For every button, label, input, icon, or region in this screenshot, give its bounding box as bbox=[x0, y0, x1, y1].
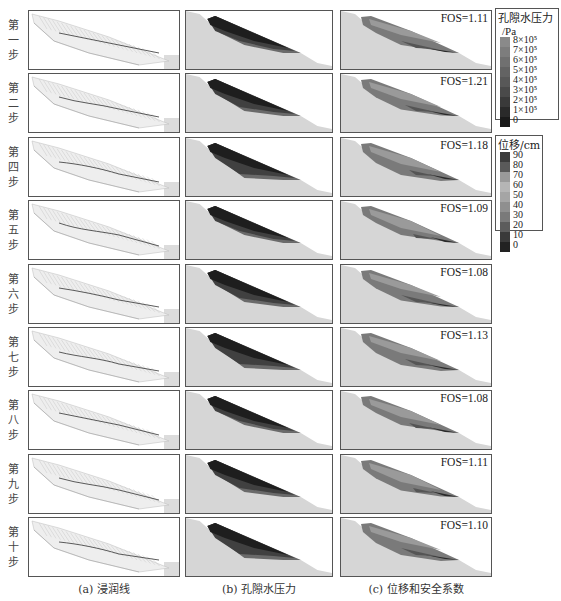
legend-swatch bbox=[500, 242, 510, 252]
seepage-line-panel bbox=[28, 73, 180, 133]
legend-swatch bbox=[500, 97, 510, 107]
row-label-step: 第一步 bbox=[4, 18, 22, 63]
pore-pressure-panel bbox=[185, 10, 333, 70]
pore-pressure-panel bbox=[185, 137, 333, 197]
legend-tick: 0 bbox=[513, 115, 537, 125]
row-label-step: 第六步 bbox=[4, 272, 22, 317]
legend-swatch bbox=[500, 182, 510, 192]
fos-value: FOS=1.18 bbox=[440, 139, 488, 151]
caption-a-seepage-line: (a) 浸润线 bbox=[28, 580, 180, 596]
pore-pressure-panel bbox=[185, 200, 333, 260]
legend-swatch bbox=[500, 77, 510, 87]
fos-value: FOS=1.13 bbox=[440, 329, 488, 341]
fos-value: FOS=1.09 bbox=[440, 202, 488, 214]
pore-pressure-panel bbox=[185, 73, 333, 133]
pore-pressure-panel bbox=[185, 517, 333, 577]
fos-value: FOS=1.10 bbox=[440, 519, 488, 531]
legend-swatch bbox=[500, 37, 510, 47]
pore-pressure-panel bbox=[185, 454, 333, 514]
seepage-line-panel bbox=[28, 327, 180, 387]
legend-swatch bbox=[500, 117, 510, 127]
legend-swatch bbox=[500, 192, 510, 202]
legend-swatch bbox=[500, 87, 510, 97]
row-label-step: 第二步 bbox=[4, 81, 22, 126]
displacement-fos-panel: FOS=1.21 bbox=[340, 73, 492, 133]
fos-value: FOS=1.08 bbox=[440, 266, 488, 278]
seepage-line-panel bbox=[28, 390, 180, 450]
displacement-fos-panel: FOS=1.11 bbox=[340, 10, 492, 70]
pore-pressure-legend-title: 孔隙水压力 bbox=[496, 9, 558, 25]
row-label-step: 第四步 bbox=[4, 145, 22, 190]
pore-pressure-panel bbox=[185, 264, 333, 324]
legend-swatch bbox=[500, 47, 510, 57]
legend-swatch bbox=[500, 67, 510, 77]
fos-value: FOS=1.11 bbox=[441, 456, 488, 468]
displacement-fos-panel: FOS=1.13 bbox=[340, 327, 492, 387]
displacement-fos-panel: FOS=1.10 bbox=[340, 517, 492, 577]
caption-b-pore-pressure: (b) 孔隙水压力 bbox=[185, 580, 333, 596]
pore-pressure-legend: 孔隙水压力 /Pa 8×10⁵7×10⁵6×10⁵5×10⁵4×10⁵3×10⁵… bbox=[495, 8, 559, 120]
seepage-line-panel bbox=[28, 137, 180, 197]
displacement-fos-panel: FOS=1.11 bbox=[340, 454, 492, 514]
pore-pressure-panel bbox=[185, 390, 333, 450]
legend-color-bar bbox=[500, 37, 510, 127]
legend-swatch bbox=[500, 212, 510, 222]
row-label-step: 第八步 bbox=[4, 398, 22, 443]
seepage-line-panel bbox=[28, 454, 180, 514]
legend-swatch bbox=[500, 232, 510, 242]
displacement-fos-panel: FOS=1.18 bbox=[340, 137, 492, 197]
row-label-step: 第五步 bbox=[4, 208, 22, 253]
seepage-line-panel bbox=[28, 264, 180, 324]
legend-tick-labels: 9080706050403020100 bbox=[513, 150, 523, 250]
legend-tick-labels: 8×10⁵7×10⁵6×10⁵5×10⁵4×10⁵3×10⁵2×10⁵1×10⁵… bbox=[513, 35, 537, 125]
legend-swatch bbox=[500, 222, 510, 232]
seepage-line-panel bbox=[28, 10, 180, 70]
fos-value: FOS=1.11 bbox=[441, 12, 488, 24]
legend-swatch bbox=[500, 107, 510, 117]
legend-swatch bbox=[500, 152, 510, 162]
pore-pressure-panel bbox=[185, 327, 333, 387]
displacement-fos-panel: FOS=1.08 bbox=[340, 390, 492, 450]
displacement-fos-panel: FOS=1.09 bbox=[340, 200, 492, 260]
legend-swatch bbox=[500, 162, 510, 172]
seepage-line-panel bbox=[28, 517, 180, 577]
displacement-fos-panel: FOS=1.08 bbox=[340, 264, 492, 324]
displacement-legend: 位移/cm 9080706050403020100 bbox=[495, 135, 543, 231]
row-label-step: 第十步 bbox=[4, 525, 22, 570]
legend-color-bar bbox=[500, 152, 510, 252]
caption-c-displacement-fos: (c) 位移和安全系数 bbox=[340, 580, 492, 596]
row-label-step: 第七步 bbox=[4, 335, 22, 380]
fos-value: FOS=1.21 bbox=[440, 75, 488, 87]
legend-swatch bbox=[500, 172, 510, 182]
legend-swatch bbox=[500, 202, 510, 212]
row-label-step: 第九步 bbox=[4, 462, 22, 507]
seepage-line-panel bbox=[28, 200, 180, 260]
legend-swatch bbox=[500, 57, 510, 67]
fos-value: FOS=1.08 bbox=[440, 392, 488, 404]
legend-tick: 0 bbox=[513, 240, 523, 250]
